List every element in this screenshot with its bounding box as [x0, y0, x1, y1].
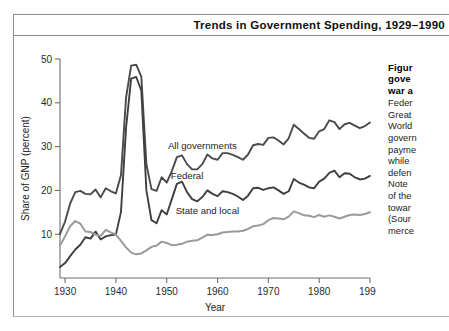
caption-heading: Figurgovewar a	[388, 62, 449, 96]
caption-body-line: towar	[388, 202, 449, 214]
y-axis-tick-label: 30	[41, 141, 53, 152]
caption-body-line: Feder	[388, 97, 449, 109]
y-axis-tick-label: 40	[41, 97, 53, 108]
x-axis-tick-label: 1980	[308, 286, 331, 297]
figure-root: Trends in Government Spending, 1929–1990…	[0, 0, 449, 331]
caption-body-line: payme	[388, 144, 449, 156]
chart-canvas: 10203040501930194019501960197019801990Ye…	[16, 40, 376, 315]
caption-body-line: Great	[388, 109, 449, 121]
y-axis-tick-label: 10	[41, 229, 53, 240]
y-axis-tick-label: 20	[41, 185, 53, 196]
x-axis-tick-label: 1960	[206, 286, 229, 297]
line-chart: 10203040501930194019501960197019801990Ye…	[16, 40, 376, 315]
figure-caption: Figurgovewar a FederGreatWorldgovernpaym…	[388, 62, 449, 236]
y-axis-title: Share of GNP (percent)	[20, 116, 31, 221]
caption-heading-line: Figur	[388, 62, 449, 73]
caption-body-line: (Sour	[388, 213, 449, 225]
y-axis-tick-label: 50	[41, 54, 53, 65]
x-axis-tick-label: 1970	[257, 286, 280, 297]
caption-body-line: merce	[388, 225, 449, 237]
caption-body-line: govern	[388, 132, 449, 144]
x-axis-title: Year	[205, 302, 226, 313]
series-annotation: State and local	[176, 205, 239, 216]
caption-body-line: of the	[388, 190, 449, 202]
caption-body-line: while	[388, 155, 449, 167]
series-line-state-and-local	[60, 211, 370, 254]
x-axis-tick-label: 1990	[359, 286, 376, 297]
x-axis-tick-label: 1930	[54, 286, 77, 297]
caption-body: FederGreatWorldgovernpaymewhiledefenNote…	[388, 97, 449, 236]
x-axis-tick-label: 1950	[156, 286, 179, 297]
caption-body-line: defen	[388, 167, 449, 179]
series-line-federal	[60, 77, 370, 267]
caption-body-line: World	[388, 120, 449, 132]
caption-heading-line: war a	[388, 85, 449, 96]
figure-title-bar: Trends in Government Spending, 1929–1990	[13, 14, 449, 36]
caption-body-line: Note	[388, 178, 449, 190]
caption-heading-line: gove	[388, 73, 449, 84]
series-annotation: Federal	[171, 170, 204, 181]
x-axis-tick-label: 1940	[105, 286, 128, 297]
figure-title: Trends in Government Spending, 1929–1990	[193, 19, 445, 31]
series-annotation: All governments	[168, 140, 237, 151]
